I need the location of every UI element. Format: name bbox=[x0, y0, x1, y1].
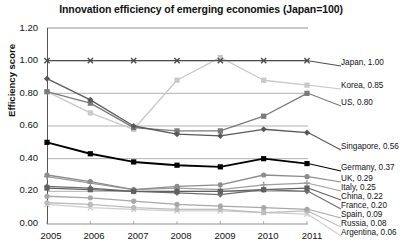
series-canvas bbox=[47, 28, 344, 224]
plot-area bbox=[47, 28, 308, 224]
legend-item-uk[interactable]: UK, 0.29 bbox=[341, 174, 373, 183]
series-us bbox=[44, 89, 309, 133]
legend-item-argentina[interactable]: Argentina, 0.06 bbox=[341, 228, 397, 237]
legend-item-france[interactable]: France, 0.20 bbox=[341, 201, 387, 210]
x-tick-2008: 2008 bbox=[161, 230, 201, 241]
legend-item-korea[interactable]: Korea, 0.85 bbox=[341, 81, 383, 90]
chart-container: Innovation efficiency of emerging econom… bbox=[0, 0, 402, 251]
x-tick-2009: 2009 bbox=[205, 230, 245, 241]
y-tick-1_20: 1.20 bbox=[4, 22, 38, 33]
legend-item-china[interactable]: China, 0.22 bbox=[341, 192, 383, 201]
x-tick-2006: 2006 bbox=[74, 230, 114, 241]
legend-item-russia[interactable]: Russia, 0.08 bbox=[341, 219, 387, 228]
series-japan bbox=[44, 58, 309, 63]
x-tick-2007: 2007 bbox=[118, 230, 158, 241]
y-tick-0_00: 0.00 bbox=[4, 217, 38, 228]
x-tick-2011: 2011 bbox=[292, 230, 332, 241]
x-tick-2010: 2010 bbox=[248, 230, 288, 241]
y-tick-0_20: 0.20 bbox=[4, 184, 38, 195]
y-tick-1_00: 1.00 bbox=[4, 54, 38, 65]
y-tick-0_80: 0.80 bbox=[4, 87, 38, 98]
legend-item-italy[interactable]: Italy, 0.25 bbox=[341, 183, 376, 192]
y-tick-0_40: 0.40 bbox=[4, 152, 38, 163]
legend-item-japan[interactable]: Japan, 1.00 bbox=[341, 58, 384, 67]
legend-item-singapore[interactable]: Singapore, 0.56 bbox=[341, 142, 399, 151]
legend-item-spain[interactable]: Spain, 0.09 bbox=[341, 210, 382, 219]
chart-title: Innovation efficiency of emerging econom… bbox=[0, 3, 402, 15]
legend-item-us[interactable]: US, 0.80 bbox=[341, 98, 373, 107]
series-germany bbox=[44, 140, 309, 170]
y-tick-0_60: 0.60 bbox=[4, 119, 38, 130]
x-tick-2005: 2005 bbox=[31, 230, 71, 241]
legend-item-germany[interactable]: Germany, 0.37 bbox=[341, 163, 395, 172]
